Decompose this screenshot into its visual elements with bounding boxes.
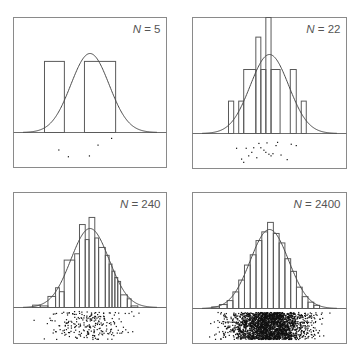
data-point: [249, 320, 250, 321]
data-point: [313, 336, 314, 337]
data-point: [255, 334, 256, 335]
data-point: [83, 317, 84, 318]
data-point: [310, 329, 311, 330]
data-point: [283, 313, 284, 314]
data-point: [231, 318, 232, 319]
data-point: [279, 316, 280, 317]
data-point: [235, 329, 236, 330]
data-point: [272, 315, 273, 316]
data-point: [293, 322, 294, 323]
data-point: [63, 312, 64, 313]
histogram-bar: [256, 37, 261, 133]
data-point: [262, 337, 263, 338]
histogram-bar: [228, 101, 233, 133]
data-point: [290, 320, 291, 321]
data-point: [298, 339, 299, 340]
data-point: [47, 323, 48, 324]
data-point: [271, 319, 272, 320]
data-point: [226, 317, 227, 318]
data-point: [229, 327, 230, 328]
data-point: [232, 330, 233, 331]
data-point: [289, 317, 290, 318]
data-point: [67, 314, 68, 315]
data-point: [299, 317, 300, 318]
data-point: [224, 316, 225, 317]
data-point: [280, 154, 281, 155]
data-point: [248, 338, 249, 339]
data-point: [104, 320, 105, 321]
data-point: [259, 332, 260, 333]
data-point: [128, 313, 129, 314]
data-point: [221, 323, 222, 324]
data-point: [260, 323, 261, 324]
data-point: [264, 322, 265, 323]
data-point: [84, 315, 85, 316]
data-point: [285, 315, 286, 316]
data-point: [291, 322, 292, 323]
data-point: [273, 325, 274, 326]
data-point: [319, 330, 320, 331]
data-point: [315, 321, 316, 322]
data-point: [269, 316, 270, 317]
data-point: [89, 324, 90, 325]
data-point: [303, 332, 304, 333]
data-point: [306, 338, 307, 339]
data-point: [321, 314, 322, 315]
data-point: [253, 334, 254, 335]
data-point: [254, 314, 255, 315]
data-point: [288, 322, 289, 323]
data-point: [244, 333, 245, 334]
data-point: [34, 320, 35, 321]
data-point: [233, 335, 234, 336]
data-point: [65, 325, 66, 326]
data-point: [52, 320, 53, 321]
data-point: [263, 313, 264, 314]
data-point: [111, 334, 112, 335]
data-point: [58, 149, 59, 150]
histogram-bar: [308, 302, 314, 308]
data-point: [290, 315, 291, 316]
data-point: [133, 316, 134, 317]
data-point: [271, 312, 272, 313]
histogram-bar: [89, 217, 95, 307]
data-point: [99, 333, 100, 334]
data-point: [64, 322, 65, 323]
data-point: [282, 334, 283, 335]
data-point: [294, 318, 295, 319]
data-point: [254, 338, 255, 339]
data-point: [282, 336, 283, 337]
histogram-bar: [131, 306, 138, 308]
data-point: [306, 315, 307, 316]
data-point: [90, 327, 91, 328]
data-point: [84, 330, 85, 331]
data-point: [248, 323, 249, 324]
data-point: [297, 328, 298, 329]
data-point: [276, 315, 277, 316]
data-point: [243, 336, 244, 337]
data-point: [128, 332, 129, 333]
data-point: [49, 318, 50, 319]
data-point: [223, 323, 224, 324]
data-point: [121, 332, 122, 333]
data-point: [99, 316, 100, 317]
data-point: [252, 329, 253, 330]
data-point: [250, 315, 251, 316]
data-point: [74, 327, 75, 328]
data-point: [246, 148, 247, 149]
data-point: [275, 338, 276, 339]
data-point: [252, 326, 253, 327]
data-point: [288, 336, 289, 337]
data-point: [101, 330, 102, 331]
data-point: [274, 316, 275, 317]
data-point: [296, 326, 297, 327]
data-point: [256, 332, 257, 333]
data-point: [73, 323, 74, 324]
normal-curve: [202, 55, 337, 134]
data-point: [314, 338, 315, 339]
panel-n240: N = 240: [14, 193, 167, 344]
data-point: [224, 326, 225, 327]
data-point: [234, 331, 235, 332]
data-point: [284, 335, 285, 336]
data-point: [223, 333, 224, 334]
data-point: [138, 313, 139, 314]
